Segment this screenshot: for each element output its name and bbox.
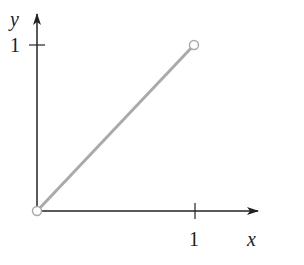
chart-canvas: y 1 1 x (0, 0, 304, 265)
x-tick-label: 1 (189, 228, 199, 250)
start-point-open-circle (33, 207, 42, 216)
end-point-open-circle (190, 41, 199, 50)
x-axis-label: x (246, 228, 256, 250)
y-tick-label: 1 (10, 34, 20, 56)
data-line (37, 45, 194, 211)
y-axis-label: y (8, 8, 19, 31)
